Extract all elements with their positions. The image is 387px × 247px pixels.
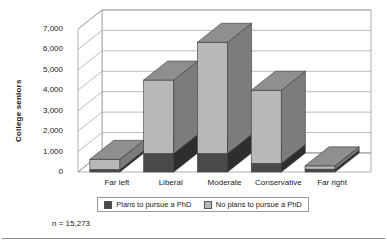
legend-swatch-no_plans	[204, 201, 212, 209]
bar-segment-no-plans-side	[228, 23, 252, 153]
bar-segment-no-plans	[305, 166, 335, 169]
bar-liberal	[144, 61, 198, 172]
bar-segment-no-plans	[90, 159, 120, 169]
x-tick-label: Far right	[297, 178, 367, 187]
bar-segment-plans	[305, 169, 335, 172]
chart-legend: Plans to pursue a PhDNo plans to pursue …	[97, 197, 309, 212]
legend-label-plans: Plans to pursue a PhD	[116, 200, 191, 209]
bar-segment-plans	[144, 154, 174, 172]
bar-segment-no-plans	[197, 42, 227, 153]
chart-figure: College seniors 01,0002,0003,0004,0005,0…	[0, 0, 387, 247]
legend-item-plans: Plans to pursue a PhD	[104, 200, 191, 209]
bar-segment-no-plans	[144, 80, 174, 154]
bar-segment-no-plans	[251, 90, 281, 163]
legend-swatch-plans	[104, 201, 112, 209]
legend-item-no_plans: No plans to pursue a PhD	[204, 200, 302, 209]
bar-segment-plans	[251, 163, 281, 172]
bar-segment-plans	[90, 170, 120, 172]
bar-moderate	[197, 23, 251, 172]
left-wall	[78, 10, 102, 172]
bar-segment-plans	[197, 154, 227, 172]
legend-label-no_plans: No plans to pursue a PhD	[216, 200, 302, 209]
bar-conservative	[251, 71, 305, 172]
footer-divider	[2, 238, 385, 239]
sample-size-note: n = 15,273	[52, 219, 90, 228]
